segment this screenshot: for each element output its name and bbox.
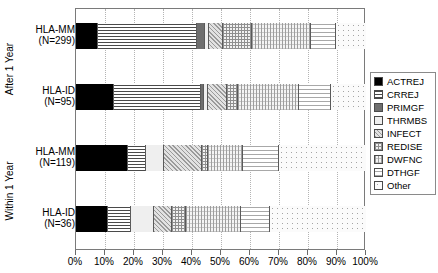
category-label-1-name: HLA-ID [0,85,75,96]
x-tick-label-30: 30% [152,256,172,267]
legend-item-infect[interactable]: INFECT [374,127,432,140]
legend-label: THRMBS [387,115,427,126]
bar-segment-infect[interactable] [164,145,202,171]
category-label-0-name: HLA-MM [0,24,75,35]
stacked-bar[interactable] [76,84,366,110]
legend-item-redise[interactable]: REDISE [374,140,432,153]
legend-swatch-infect [374,129,383,138]
x-tick-label-20: 20% [123,256,143,267]
bar-segment-thrmbs[interactable] [131,206,154,232]
x-tick-label-80: 80% [297,256,317,267]
bar-segment-actrej[interactable] [76,206,108,232]
x-tick-label-100: 100% [352,256,378,267]
stacked-bar-chart: After 1 Year Within 1 Year HLA-MM (N=299… [0,0,438,273]
bar-segment-other[interactable] [270,206,366,232]
category-label-0-n: (N=299) [0,35,75,46]
x-tick-label-10: 10% [94,256,114,267]
bar-segment-actrej[interactable] [76,23,98,49]
x-tick-70 [278,250,279,255]
legend-swatch-primgf [374,103,383,112]
legend-swatch-redise [374,142,383,151]
bar-segment-dwfnc[interactable] [208,145,243,171]
legend-item-dthgf[interactable]: DTHGF [374,166,432,179]
x-tick-10 [104,250,105,255]
legend-label: INFECT [387,128,421,139]
x-tick-label-50: 50% [210,256,230,267]
stacked-bar[interactable] [76,145,366,171]
x-tick-label-40: 40% [181,256,201,267]
category-label-2: HLA-MM (N=119) [0,146,75,168]
legend-label: PRIMGF [387,102,424,113]
bar-segment-redise[interactable] [172,206,187,232]
bar-segment-thrmbs[interactable] [146,145,165,171]
x-tick-100 [365,250,366,255]
bar-segment-dwfnc[interactable] [252,23,311,49]
legend: ACTREJCRREJPRIMGFTHRMBSINFECTREDISEDWFNC… [370,72,436,195]
bar-segment-crrej[interactable] [98,23,197,49]
bar-segment-actrej[interactable] [76,145,128,171]
category-label-0: HLA-MM (N=299) [0,24,75,46]
bar-segment-infect[interactable] [154,206,171,232]
legend-item-actrej[interactable]: ACTREJ [374,75,432,88]
legend-label: CRREJ [387,89,419,100]
plot-area [75,8,365,250]
bar-segment-other[interactable] [336,23,366,49]
bar-segment-dthgf[interactable] [241,206,270,232]
legend-swatch-actrej [374,77,383,86]
category-label-1-n: (N=95) [0,96,75,107]
x-tick-50 [220,250,221,255]
category-label-1: HLA-ID (N=95) [0,85,75,107]
x-tick-label-70: 70% [268,256,288,267]
bar-segment-infect[interactable] [208,84,227,110]
legend-swatch-dthgf [374,168,383,177]
bar-segment-primgf[interactable] [197,23,205,49]
bar-row [76,23,364,49]
legend-label: Other [387,180,411,191]
legend-item-dwfnc[interactable]: DWFNC [374,153,432,166]
x-tick-60 [249,250,250,255]
x-tick-label-60: 60% [239,256,259,267]
bar-segment-redise[interactable] [223,23,252,49]
bar-row [76,145,364,171]
bar-segment-crrej[interactable] [108,206,131,232]
legend-swatch-crrej [374,90,383,99]
x-axis: 0%10%20%30%40%50%60%70%80%90%100% [75,250,365,272]
bar-segment-crrej[interactable] [128,145,145,171]
x-tick-30 [162,250,163,255]
category-label-3: HLA-ID (N=36) [0,207,75,229]
stacked-bar[interactable] [76,206,366,232]
bar-row [76,84,364,110]
x-tick-90 [336,250,337,255]
legend-item-other[interactable]: Other [374,179,432,192]
bar-segment-infect[interactable] [209,23,223,49]
category-label-3-n: (N=36) [0,218,75,229]
stacked-bar[interactable] [76,23,366,49]
legend-swatch-thrmbs [374,116,383,125]
bar-segment-redise[interactable] [227,84,239,110]
bar-segment-dwfnc[interactable] [186,206,241,232]
bar-segment-dthgf[interactable] [299,84,331,110]
legend-swatch-other [374,181,383,190]
legend-label: DTHGF [387,167,420,178]
category-label-2-n: (N=119) [0,157,75,168]
legend-label: ACTREJ [387,76,424,87]
bar-segment-dthgf[interactable] [311,23,336,49]
bar-segment-actrej[interactable] [76,84,114,110]
x-tick-label-90: 90% [326,256,346,267]
bar-segment-crrej[interactable] [114,84,201,110]
bar-segment-other[interactable] [331,84,366,110]
x-tick-40 [191,250,192,255]
legend-item-thrmbs[interactable]: THRMBS [374,114,432,127]
x-tick-label-0: 0% [68,256,82,267]
bar-segment-dwfnc[interactable] [238,84,299,110]
x-tick-0 [75,250,76,255]
category-label-3-name: HLA-ID [0,207,75,218]
bar-segment-other[interactable] [279,145,366,171]
legend-item-crrej[interactable]: CRREJ [374,88,432,101]
legend-item-primgf[interactable]: PRIMGF [374,101,432,114]
legend-label: REDISE [387,141,422,152]
legend-swatch-dwfnc [374,155,383,164]
bar-segment-dthgf[interactable] [243,145,279,171]
x-tick-20 [133,250,134,255]
bar-row [76,206,364,232]
